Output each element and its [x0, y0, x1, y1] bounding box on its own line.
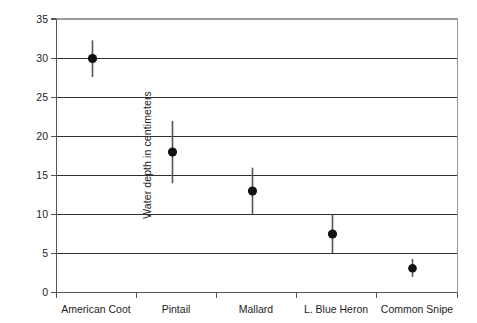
marker-point	[408, 264, 417, 273]
gridlines	[56, 19, 458, 254]
plot-area	[0, 0, 477, 323]
data-point-l-blue-heron	[328, 215, 337, 254]
x-tick-label-american-coot: American Coot	[61, 303, 130, 315]
marker-point	[328, 229, 337, 238]
y-axis-ticks	[51, 19, 56, 293]
chart-container: Water depth in centimeters 35 30 25 20 1…	[0, 0, 477, 323]
marker-point	[88, 54, 97, 63]
x-tick-label-l-blue-heron: L. Blue Heron	[304, 303, 368, 315]
data-point-mallard	[248, 168, 257, 215]
marker-point	[248, 187, 257, 196]
data-point-pintail	[168, 121, 177, 183]
marker-point	[168, 148, 177, 157]
x-tick-label-common-snipe: Common Snipe	[381, 303, 453, 315]
data-point-american-coot	[88, 40, 97, 77]
data-point-common-snipe	[408, 259, 417, 277]
data-series	[88, 40, 417, 277]
x-axis-ticks	[57, 293, 458, 299]
x-tick-label-mallard: Mallard	[239, 303, 273, 315]
axis-lines	[56, 19, 458, 293]
x-tick-label-pintail: Pintail	[162, 303, 191, 315]
